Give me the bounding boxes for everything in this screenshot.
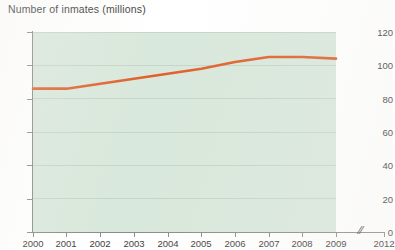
series-line-inmates (33, 57, 336, 89)
